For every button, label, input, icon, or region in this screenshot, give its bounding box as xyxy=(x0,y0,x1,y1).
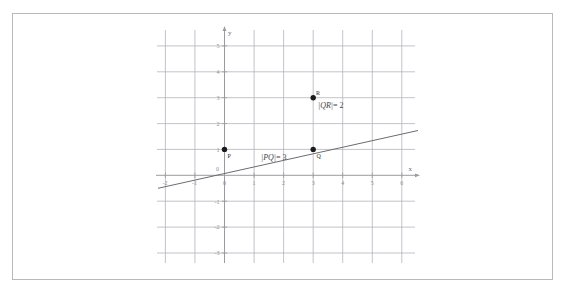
annotation-qr-math: |QR| xyxy=(318,101,333,110)
figure-page: -2 -1 0 1 2 3 4 5 6 5 4 3 2 1 0 -1 -2 -3… xyxy=(0,0,566,294)
y-tick-label-3: 3 xyxy=(217,95,220,101)
annotation-qr-value: = 2 xyxy=(333,101,344,110)
x-tick-label-4: 4 xyxy=(341,180,344,186)
y-tick-label-1: 1 xyxy=(217,147,220,153)
x-tick-label-5: 5 xyxy=(371,180,374,186)
point-P xyxy=(222,147,227,152)
point-label-R: R xyxy=(316,90,320,96)
y-axis-label: y xyxy=(228,30,232,37)
y-tick-label--1: -1 xyxy=(215,199,220,205)
annotation-pq-length: |PQ|= 3 xyxy=(261,154,287,162)
y-tick-label-origin: 0 xyxy=(216,166,219,172)
point-label-P: P xyxy=(228,153,231,159)
grid-vertical-lines xyxy=(165,30,401,263)
x-axis-label: x xyxy=(409,166,413,173)
point-label-Q: Q xyxy=(317,153,321,159)
x-tick-label-6: 6 xyxy=(400,180,403,186)
y-tick-label-5: 5 xyxy=(217,43,220,49)
x-tick-label--2: -2 xyxy=(162,180,167,186)
annotation-qr-length: |QR|= 2 xyxy=(318,102,344,110)
coordinate-plot xyxy=(0,0,566,294)
y-tick-label--2: -2 xyxy=(215,224,220,230)
x-tick-label-2: 2 xyxy=(282,180,285,186)
point-Q xyxy=(311,147,316,152)
axis-lines xyxy=(156,28,418,263)
y-tick-label--3: -3 xyxy=(215,250,220,256)
annotation-pq-value: = 3 xyxy=(276,153,287,162)
grid-horizontal-lines xyxy=(157,46,415,253)
plotted-line xyxy=(158,131,418,189)
annotation-pq-math: |PQ| xyxy=(261,153,276,162)
y-tick-label-4: 4 xyxy=(217,69,220,75)
x-tick-label-1: 1 xyxy=(253,180,256,186)
x-tick-label-0: 0 xyxy=(223,180,226,186)
y-axis-arrow xyxy=(223,26,227,31)
point-R xyxy=(311,95,316,100)
x-tick-label-3: 3 xyxy=(312,180,315,186)
x-tick-label--1: -1 xyxy=(192,180,197,186)
y-tick-label-2: 2 xyxy=(217,121,220,127)
x-axis-arrow xyxy=(415,173,420,177)
